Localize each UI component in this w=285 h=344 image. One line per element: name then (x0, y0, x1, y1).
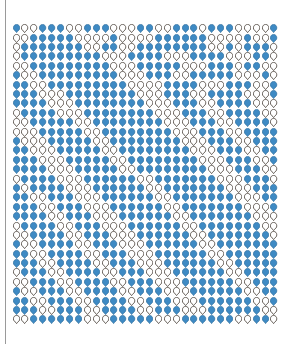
balloon-icon (74, 268, 83, 277)
balloon-icon (261, 231, 270, 240)
balloon-icon (21, 278, 30, 287)
balloon-icon (163, 109, 172, 118)
balloon-icon (216, 212, 225, 221)
balloon-icon (101, 90, 110, 99)
balloon-icon (74, 221, 83, 230)
balloon-icon (12, 137, 21, 146)
balloon-icon (154, 127, 163, 136)
balloon-icon (74, 43, 83, 52)
balloon-icon (234, 137, 243, 146)
balloon-icon (172, 306, 181, 315)
balloon-icon (92, 155, 101, 164)
balloon-icon (216, 137, 225, 146)
balloon-icon (154, 249, 163, 258)
balloon-icon (74, 193, 83, 202)
balloon-icon (12, 165, 21, 174)
balloon-icon (243, 137, 252, 146)
balloon-icon (181, 80, 190, 89)
balloon-icon (154, 80, 163, 89)
balloon-icon (110, 212, 119, 221)
balloon-icon (101, 259, 110, 268)
balloon-icon (261, 43, 270, 52)
balloon-icon (190, 278, 199, 287)
balloon-icon (243, 109, 252, 118)
balloon-icon (243, 259, 252, 268)
balloon-icon (270, 43, 279, 52)
balloon-icon (225, 184, 234, 193)
balloon-icon (110, 24, 119, 33)
balloon-icon (234, 278, 243, 287)
balloon-icon (119, 287, 128, 296)
balloon-icon (83, 127, 92, 136)
balloon-icon (48, 306, 57, 315)
balloon-icon (199, 118, 208, 127)
balloon-icon (252, 184, 261, 193)
balloon-icon (21, 306, 30, 315)
balloon-icon (270, 90, 279, 99)
balloon-icon (101, 80, 110, 89)
balloon-icon (261, 306, 270, 315)
balloon-icon (216, 127, 225, 136)
balloon-icon (128, 221, 137, 230)
balloon-icon (172, 43, 181, 52)
balloon-icon (65, 33, 74, 42)
pictogram-row (12, 193, 280, 202)
balloon-icon (48, 193, 57, 202)
balloon-icon (208, 71, 217, 80)
balloon-icon (128, 249, 137, 258)
balloon-icon (154, 71, 163, 80)
balloon-icon (252, 62, 261, 71)
balloon-icon (128, 231, 137, 240)
balloon-icon (65, 296, 74, 305)
balloon-icon (56, 90, 65, 99)
balloon-icon (234, 268, 243, 277)
balloon-icon (110, 165, 119, 174)
balloon-icon (128, 62, 137, 71)
balloon-icon (48, 43, 57, 52)
balloon-icon (136, 268, 145, 277)
balloon-icon (190, 146, 199, 155)
balloon-icon (145, 212, 154, 221)
balloon-icon (30, 193, 39, 202)
balloon-icon (163, 249, 172, 258)
balloon-icon (101, 296, 110, 305)
balloon-icon (56, 174, 65, 183)
balloon-icon (12, 278, 21, 287)
balloon-icon (234, 174, 243, 183)
pictogram-row (12, 80, 280, 89)
balloon-icon (261, 296, 270, 305)
balloon-icon (65, 259, 74, 268)
balloon-icon (119, 193, 128, 202)
balloon-icon (92, 52, 101, 61)
balloon-icon (252, 212, 261, 221)
balloon-icon (190, 259, 199, 268)
balloon-icon (252, 146, 261, 155)
balloon-icon (12, 259, 21, 268)
balloon-icon (12, 231, 21, 240)
balloon-icon (119, 202, 128, 211)
balloon-icon (128, 118, 137, 127)
balloon-icon (119, 212, 128, 221)
balloon-icon (261, 80, 270, 89)
balloon-icon (216, 315, 225, 324)
balloon-icon (163, 306, 172, 315)
balloon-icon (163, 212, 172, 221)
balloon-icon (181, 71, 190, 80)
pictogram-row (12, 306, 280, 315)
balloon-icon (145, 193, 154, 202)
balloon-icon (181, 193, 190, 202)
balloon-icon (39, 146, 48, 155)
balloon-icon (154, 109, 163, 118)
balloon-icon (145, 52, 154, 61)
balloon-icon (225, 193, 234, 202)
balloon-icon (39, 43, 48, 52)
balloon-icon (190, 315, 199, 324)
balloon-icon (30, 33, 39, 42)
balloon-icon (92, 193, 101, 202)
pictogram-row (12, 315, 280, 324)
balloon-icon (83, 90, 92, 99)
balloon-icon (261, 278, 270, 287)
balloon-icon (136, 118, 145, 127)
balloon-icon (30, 268, 39, 277)
pictogram-row (12, 240, 280, 249)
